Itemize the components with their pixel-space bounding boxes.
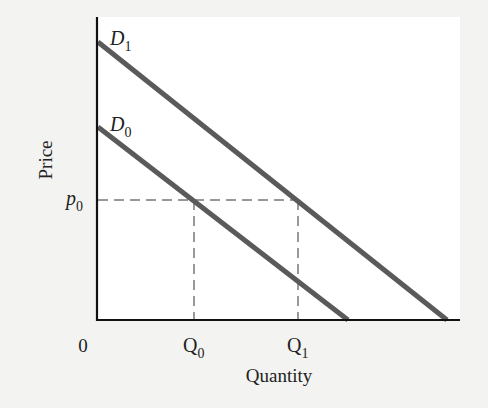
origin-label: 0 <box>78 335 88 356</box>
x-axis-title: Quantity <box>246 365 313 386</box>
q0-tick-label: Q0 <box>183 334 204 361</box>
p0-tick-label: p0 <box>64 187 83 214</box>
q1-tick-label: Q1 <box>287 334 308 361</box>
y-axis-title: Price <box>35 140 56 179</box>
demand-shift-chart: D1 D0 p0 Price 0 Q0 Q1 Quantity <box>0 0 488 408</box>
